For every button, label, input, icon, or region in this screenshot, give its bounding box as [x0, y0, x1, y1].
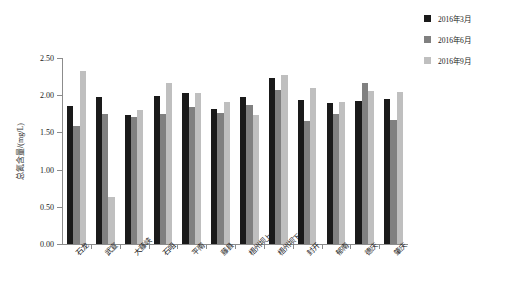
- bar: [281, 75, 287, 244]
- bar: [80, 71, 86, 244]
- y-axis-tick-label: 0.50: [40, 202, 54, 211]
- legend-item[interactable]: 2016年6月: [424, 29, 508, 50]
- bar: [310, 88, 316, 244]
- chart-legend: 2016年3月2016年6月2016年9月: [424, 8, 508, 71]
- x-axis-tick: [350, 245, 351, 249]
- x-axis-tick: [379, 245, 380, 249]
- y-axis-tick: [57, 58, 62, 59]
- bar: [368, 91, 374, 244]
- bar: [397, 92, 403, 244]
- x-axis-tick: [264, 245, 265, 249]
- y-axis-tick-label: 1.50: [40, 128, 54, 137]
- bar: [224, 102, 230, 244]
- x-axis-tick: [177, 245, 178, 249]
- x-axis-tick: [91, 245, 92, 249]
- y-axis-tick: [57, 132, 62, 133]
- bar: [166, 83, 172, 244]
- y-axis-tick-label: 1.00: [40, 165, 54, 174]
- legend-swatch-icon: [424, 15, 431, 22]
- x-axis-tick: [206, 245, 207, 249]
- x-axis-tick: [149, 245, 150, 249]
- legend-item[interactable]: 2016年3月: [424, 8, 508, 29]
- legend-item-label: 2016年6月: [438, 34, 471, 45]
- y-axis-title: 总氮含量/(mg/L): [14, 58, 28, 245]
- y-axis-tick: [57, 244, 62, 245]
- bar: [339, 102, 345, 244]
- bar: [253, 115, 259, 244]
- legend-item-label: 2016年9月: [438, 55, 471, 66]
- y-axis-tick: [57, 95, 62, 96]
- x-axis-tick: [293, 245, 294, 249]
- plot-area: 0.000.501.001.502.002.50石龙武宣大藤峡石咀平南藤县梧州坝…: [62, 58, 408, 245]
- legend-item-label: 2016年3月: [438, 13, 471, 24]
- x-axis-tick: [120, 245, 121, 249]
- y-axis-tick: [57, 207, 62, 208]
- bar: [137, 110, 143, 244]
- legend-swatch-icon: [424, 36, 431, 43]
- y-axis-tick-label: 2.00: [40, 91, 54, 100]
- bar: [195, 93, 201, 244]
- bar: [108, 197, 114, 244]
- y-axis-line: [62, 58, 63, 245]
- legend-swatch-icon: [424, 57, 431, 64]
- x-axis-tick: [235, 245, 236, 249]
- y-axis-tick: [57, 170, 62, 171]
- y-axis-tick-label: 0.00: [40, 240, 54, 249]
- y-axis-tick-label: 2.50: [40, 54, 54, 63]
- x-axis-tick: [322, 245, 323, 249]
- legend-item[interactable]: 2016年9月: [424, 50, 508, 71]
- bar-chart: 2016年3月2016年6月2016年9月 总氮含量/(mg/L) 0.000.…: [0, 0, 511, 299]
